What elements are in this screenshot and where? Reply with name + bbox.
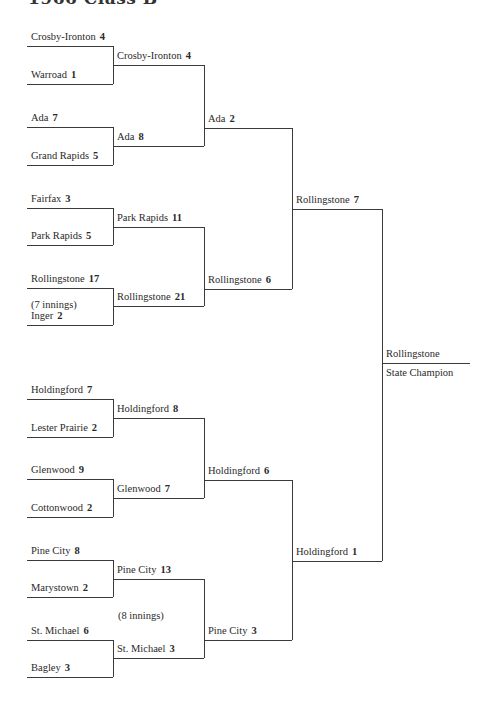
team-slot-r1-8: Inger2 <box>31 310 62 322</box>
team-name: Rollingstone <box>386 348 440 359</box>
team-name: St. Michael <box>117 643 165 654</box>
bracket-line-r4-1 <box>292 209 382 210</box>
team-name: Inger <box>31 310 53 321</box>
team-name: Holdingford <box>208 465 260 476</box>
team-name: Rollingstone <box>117 291 171 302</box>
bracket-line-r2-8 <box>113 658 204 659</box>
bracket-line-r1-3 <box>27 127 113 128</box>
team-slot-r1-5: Fairfax3 <box>31 193 71 205</box>
team-slot-r1-15: St. Michael6 <box>31 625 89 637</box>
team-score: 13 <box>160 564 171 575</box>
team-name: Lester Prairie <box>31 422 88 433</box>
team-name: Cottonwood <box>31 502 83 513</box>
bracket-line-r1-10 <box>27 437 113 438</box>
team-name: Grand Rapids <box>31 150 89 161</box>
bracket-connector <box>113 208 114 245</box>
team-name: Fairfax <box>31 193 61 204</box>
team-slot-r2-5: Holdingford8 <box>117 403 178 415</box>
team-slot-r1-14: Marystown2 <box>31 582 88 594</box>
team-name: Holdingford <box>296 546 348 557</box>
team-score: 1 <box>71 69 76 80</box>
team-score: 7 <box>87 384 92 395</box>
team-score: 21 <box>175 291 186 302</box>
note-7-innings: (7 innings) <box>31 299 77 311</box>
team-score: 2 <box>230 113 235 124</box>
bracket-connector <box>113 479 114 517</box>
team-score: 5 <box>93 150 98 161</box>
team-slot-r1-4: Grand Rapids5 <box>31 150 98 162</box>
bracket-connector <box>113 127 114 165</box>
bracket-line-r1-6 <box>27 245 113 246</box>
bracket-line-r2-7 <box>113 579 204 580</box>
bracket-connector <box>204 418 205 498</box>
team-name: Ada <box>117 131 135 142</box>
team-score: 3 <box>65 193 70 204</box>
team-score: 8 <box>173 403 178 414</box>
team-score: 6 <box>266 274 271 285</box>
team-slot-r1-3: Ada7 <box>31 112 58 124</box>
team-slot-r4-1: Rollingstone7 <box>296 194 359 206</box>
team-name: Crosby-Ironton <box>31 31 96 42</box>
team-score: 5 <box>86 230 91 241</box>
team-name: Ada <box>31 112 49 123</box>
team-score: 3 <box>251 625 256 636</box>
bracket-line-r2-1 <box>113 65 204 66</box>
bracket-line-r1-13 <box>27 560 113 561</box>
team-slot-r3-2: Rollingstone6 <box>208 274 271 286</box>
team-name: Rollingstone <box>208 274 262 285</box>
team-score: 2 <box>83 582 88 593</box>
team-name: St. Michael <box>31 625 79 636</box>
bracket-line-r1-9 <box>27 399 113 400</box>
team-score: 6 <box>83 625 88 636</box>
bracket-line-r3-3 <box>204 480 292 481</box>
team-score: 4 <box>100 31 105 42</box>
team-name: Park Rapids <box>117 212 168 223</box>
bracket-line-r1-14 <box>27 597 113 598</box>
team-slot-r1-1: Crosby-Ironton4 <box>31 31 105 43</box>
bracket-line-r2-2 <box>113 146 204 147</box>
bracket-connector <box>113 640 114 677</box>
team-slot-r1-2: Warroad1 <box>31 69 76 81</box>
bracket-line-r1-8 <box>27 325 113 326</box>
team-slot-r2-4: Rollingstone21 <box>117 291 185 303</box>
team-name: Holdingford <box>117 403 169 414</box>
bracket-line-r1-5 <box>27 208 113 209</box>
bracket-connector <box>382 209 383 561</box>
bracket-connector <box>113 288 114 325</box>
team-score: 2 <box>57 310 62 321</box>
bracket-line-r1-2 <box>27 84 113 85</box>
note-8-innings: (8 innings) <box>118 610 164 622</box>
team-score: 1 <box>352 546 357 557</box>
team-slot-r4-2: Holdingford1 <box>296 546 357 558</box>
team-name: Park Rapids <box>31 230 82 241</box>
team-score: 11 <box>172 212 182 223</box>
team-score: 3 <box>169 643 174 654</box>
bracket-line-r1-4 <box>27 165 113 166</box>
bracket-line-r2-5 <box>113 418 204 419</box>
bracket-connector <box>113 560 114 597</box>
team-score: 9 <box>79 464 84 475</box>
bracket-line-r1-11 <box>27 479 113 480</box>
team-slot-r1-16: Bagley3 <box>31 662 70 674</box>
team-score: 7 <box>53 112 58 123</box>
team-slot-r1-10: Lester Prairie2 <box>31 422 97 434</box>
state-champion: State Champion <box>386 367 453 379</box>
team-score: 6 <box>264 465 269 476</box>
team-slot-r2-7: Pine City13 <box>117 564 171 576</box>
team-slot-r1-6: Park Rapids5 <box>31 230 91 242</box>
bracket-connector <box>292 128 293 289</box>
bracket-connector <box>204 227 205 306</box>
bracket-line-r3-4 <box>204 640 292 641</box>
team-slot-r1-9: Holdingford7 <box>31 384 92 396</box>
team-slot-r2-2: Ada8 <box>117 131 144 143</box>
team-name: Glenwood <box>117 483 161 494</box>
team-name: Warroad <box>31 69 67 80</box>
team-slot-r1-11: Glenwood9 <box>31 464 84 476</box>
team-score: 3 <box>65 662 70 673</box>
team-slot-r2-1: Crosby-Ironton4 <box>117 50 191 62</box>
team-slot-r2-3: Park Rapids11 <box>117 212 182 224</box>
bracket-line-r1-16 <box>27 677 113 678</box>
team-name: Pine City <box>31 545 70 556</box>
team-name: Rollingstone <box>31 273 85 284</box>
team-name: Glenwood <box>31 464 75 475</box>
